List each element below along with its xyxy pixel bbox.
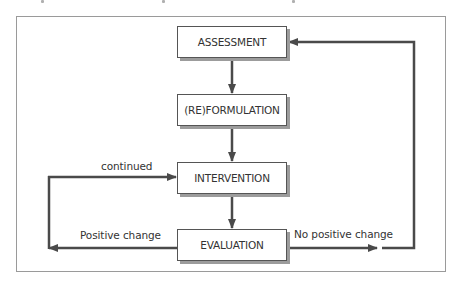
node-reformulation: (RE)FORMULATION (177, 94, 287, 126)
node-intervention: INTERVENTION (177, 162, 287, 194)
line-right-loop (300, 42, 414, 248)
edge-label-positive-change: Positive change (80, 229, 161, 241)
node-evaluation: EVALUATION (177, 229, 287, 261)
node-assessment: ASSESSMENT (177, 26, 287, 58)
edge-label-no-positive-change: No positive change (294, 228, 393, 240)
edge-label-continued: continued (101, 160, 152, 172)
